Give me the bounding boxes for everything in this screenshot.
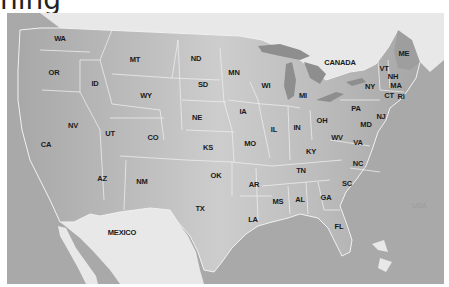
state-label-me[interactable]: ME [399, 49, 410, 58]
state-label-ne[interactable]: NE [192, 113, 202, 122]
state-label-ma[interactable]: MA [390, 81, 401, 90]
state-label-id[interactable]: ID [91, 79, 98, 88]
state-label-pa[interactable]: PA [351, 104, 360, 113]
state-label-ks[interactable]: KS [203, 143, 213, 152]
state-label-wy[interactable]: WY [140, 91, 152, 100]
state-label-ky[interactable]: KY [306, 147, 316, 156]
state-label-ny[interactable]: NY [365, 82, 375, 91]
state-label-wa[interactable]: WA [54, 34, 66, 43]
state-label-nc[interactable]: NC [353, 159, 363, 168]
state-label-nh[interactable]: NH [388, 72, 398, 81]
state-label-la[interactable]: LA [248, 215, 258, 224]
state-label-or[interactable]: OR [49, 68, 60, 77]
state-label-mi[interactable]: MI [299, 91, 307, 100]
us-map[interactable]: WAORIDMTNDSDWYMNWIMINVUTCONEIAILINOHPANY… [7, 13, 444, 284]
state-label-ut[interactable]: UT [105, 129, 115, 138]
state-label-nd[interactable]: ND [191, 54, 201, 63]
state-label-in[interactable]: IN [293, 123, 300, 132]
state-label-oh[interactable]: OH [317, 116, 328, 125]
state-label-ri[interactable]: RI [397, 92, 404, 101]
state-label-tn[interactable]: TN [296, 166, 306, 175]
state-label-ca[interactable]: CA [41, 140, 51, 149]
state-label-sc[interactable]: SC [342, 179, 352, 188]
map-graphic [7, 13, 444, 284]
state-label-wv[interactable]: WV [331, 133, 343, 142]
state-label-nm[interactable]: NM [136, 177, 147, 186]
state-label-fl[interactable]: FL [335, 222, 344, 231]
state-label-nv[interactable]: NV [68, 121, 78, 130]
state-label-md[interactable]: MD [360, 120, 371, 129]
state-label-co[interactable]: CO [148, 133, 159, 142]
state-label-az[interactable]: AZ [97, 174, 107, 183]
state-label-ct[interactable]: CT [384, 91, 394, 100]
state-label-mn[interactable]: MN [228, 68, 239, 77]
state-label-ia[interactable]: IA [239, 107, 246, 116]
state-label-sd[interactable]: SD [198, 80, 208, 89]
state-label-al[interactable]: AL [295, 195, 305, 204]
state-label-ok[interactable]: OK [211, 171, 222, 180]
state-label-il[interactable]: IL [271, 125, 277, 134]
state-label-ga[interactable]: GA [321, 193, 332, 202]
country-label-mexico[interactable]: MEXICO [108, 228, 136, 237]
state-label-mo[interactable]: MO [244, 139, 256, 148]
state-label-wi[interactable]: WI [262, 81, 271, 90]
state-label-mt[interactable]: MT [130, 55, 140, 64]
state-label-va[interactable]: VA [353, 138, 362, 147]
state-label-ar[interactable]: AR [249, 180, 259, 189]
state-label-nj[interactable]: NJ [376, 112, 385, 121]
state-label-ms[interactable]: MS [273, 197, 284, 206]
country-label-canada[interactable]: CANADA [324, 58, 355, 67]
map-watermark: USA [412, 202, 426, 209]
state-label-tx[interactable]: TX [195, 204, 204, 213]
heading-right-fragment: · · · [318, 0, 353, 10]
